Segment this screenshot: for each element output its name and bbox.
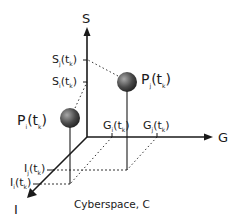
tick-label-sj: Sj(tk) (52, 53, 77, 68)
tick-label-ij: Ij(tk) (24, 162, 45, 177)
point-pi-ball-icon (60, 108, 80, 128)
point-pi-label: Pi(tk) (17, 112, 47, 130)
i-axis-label: I (14, 202, 18, 217)
s-axis-arrow-icon (84, 27, 91, 36)
cyberspace-diagram: S G I Pj(tk) Pi(tk) Sj(tk) Si(tk) Gi(tk)… (0, 0, 238, 221)
g-axis-arrow-icon (204, 134, 213, 141)
g-axis-label: G (218, 130, 228, 145)
point-pj-ball-icon (117, 72, 137, 92)
point-pj-label: Pj(tk) (141, 71, 171, 90)
tick-label-ii: Ii(tk) (10, 176, 31, 190)
diagram-caption: Cyberspace, C (74, 198, 150, 210)
tick-label-si: Si(tk) (52, 75, 77, 89)
tick-label-gj: Gj(tk) (143, 119, 170, 134)
tick-label-gi: Gi(tk) (103, 119, 130, 133)
s-axis-label: S (82, 11, 90, 26)
